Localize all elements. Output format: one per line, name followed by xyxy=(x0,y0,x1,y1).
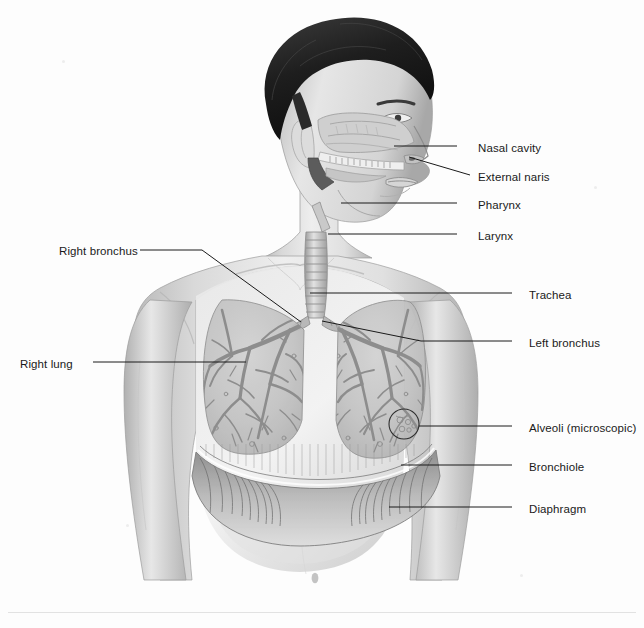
right-lung xyxy=(203,300,304,454)
scan-speck xyxy=(594,186,597,189)
label-larynx: Larynx xyxy=(478,230,513,242)
anatomy-illustration xyxy=(0,0,644,628)
label-bronchiole: Bronchiole xyxy=(529,461,584,473)
label-pharynx: Pharynx xyxy=(478,199,521,211)
head xyxy=(265,17,435,222)
label-diaphragm: Diaphragm xyxy=(529,503,586,515)
label-alveoli: Alveoli (microscopic) xyxy=(529,422,637,434)
label-left-bronchus: Left bronchus xyxy=(529,337,600,349)
footer-rule xyxy=(8,612,636,613)
label-external-naris: External naris xyxy=(478,171,550,183)
label-nasal-cavity: Nasal cavity xyxy=(478,142,541,154)
scan-speck xyxy=(520,574,523,577)
scan-speck xyxy=(126,524,129,527)
trachea xyxy=(305,232,328,318)
left-lung xyxy=(330,300,425,458)
label-right-lung: Right lung xyxy=(20,358,73,370)
label-trachea: Trachea xyxy=(529,289,571,301)
scan-speck xyxy=(62,60,65,63)
respiratory-system-figure: Nasal cavity External naris Pharynx Lary… xyxy=(0,0,644,628)
navel xyxy=(312,573,319,583)
label-right-bronchus: Right bronchus xyxy=(59,245,138,257)
